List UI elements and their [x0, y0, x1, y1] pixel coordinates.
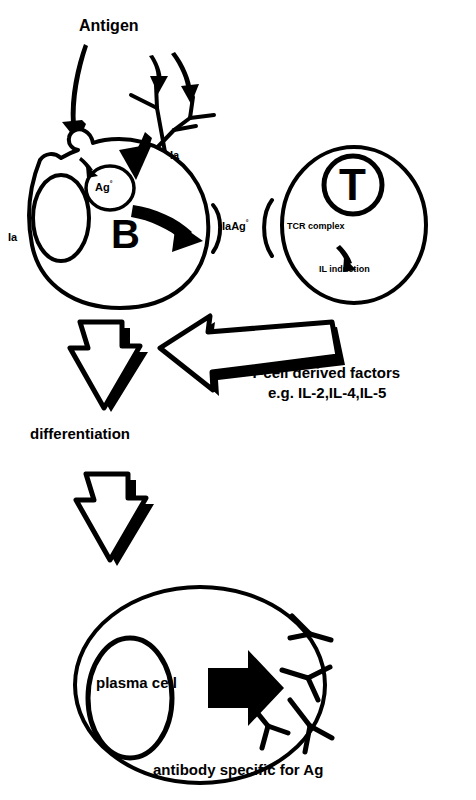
t-cell-factors-line2: e.g. IL-2,IL-4,IL-5 [268, 385, 386, 400]
ia-ag-text: IaAg [222, 220, 246, 232]
antigen-label: Antigen [79, 18, 139, 34]
ia-ag-right-bracket-icon [264, 200, 272, 256]
plasma-nucleus-oval-icon [88, 638, 172, 758]
differentiation-label: differentiation [30, 426, 130, 441]
t-cell-factors-line1: T-cell derived factors [250, 365, 400, 380]
b-cell-label: B [111, 214, 140, 254]
ag-processed-label: Ag° [95, 181, 112, 193]
t-cell-label: T [339, 163, 366, 207]
ag-superscript: ° [110, 180, 113, 187]
tcr-complex-label: TCR complex [287, 222, 345, 231]
diagram-canvas [0, 0, 476, 800]
ia-ag-left-bracket-icon [213, 205, 220, 252]
differentiation-block-arrow-icon [70, 322, 148, 412]
plasma-cell-label: plasma cell [96, 675, 177, 690]
ia-top-label: Ia [170, 150, 179, 161]
ia-ag-superscript: ° [246, 219, 249, 226]
immunology-diagram: Antigen Ia Ia Ag° B IaAg° T TCR complex … [0, 0, 476, 800]
ia-ag-label: IaAg° [222, 220, 249, 232]
il-induction-label: IL induction [319, 265, 370, 274]
ia-left-label: Ia [8, 232, 17, 243]
nucleus-oval-icon [33, 175, 89, 261]
antibody-caption-label: antibody specific for Ag [153, 762, 323, 777]
differentiation-block-arrow-icon-2 [76, 474, 154, 566]
ag-text: Ag [95, 181, 110, 193]
